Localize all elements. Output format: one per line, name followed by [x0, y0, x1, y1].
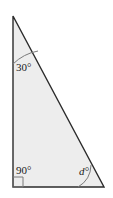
angle-label-bottom-left-90deg: 90°	[16, 165, 31, 176]
geometry-figure: 30° 90° d°	[0, 0, 113, 198]
triangle-shape	[13, 16, 104, 187]
angle-label-bottom-right-d: d°	[79, 166, 89, 177]
angle-label-top-30deg: 30°	[16, 62, 31, 73]
